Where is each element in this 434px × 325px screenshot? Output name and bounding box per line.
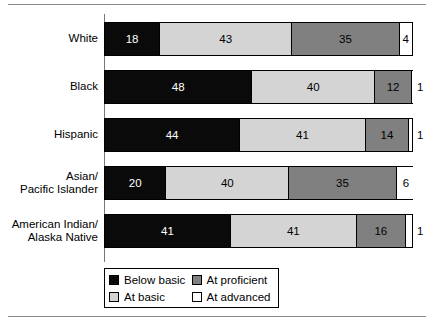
legend-item-label: At proficient — [207, 274, 268, 286]
bar-segment-below: 18 — [105, 23, 160, 55]
bar-segment-adv: 1 — [412, 71, 415, 103]
legend-grid: Below basicAt proficientAt basicAt advan… — [105, 269, 278, 307]
segment-value: 35 — [336, 177, 349, 189]
chart-row: Hispanic44411411 — [0, 118, 434, 152]
bar-segment-below: 48 — [105, 71, 252, 103]
segment-value: 4 — [403, 33, 409, 45]
segment-value: 41 — [161, 225, 174, 237]
bar-segment-prof: 16 — [357, 215, 406, 247]
bar-segment-basic: 41 — [231, 215, 357, 247]
bar-segment-prof: 35 — [292, 23, 399, 55]
segment-value-outside: 1 — [417, 70, 423, 104]
row-category-label: American Indian/ Alaska Native — [2, 214, 104, 248]
segment-value: 12 — [387, 81, 400, 93]
segment-value: 20 — [129, 177, 142, 189]
legend-swatch-icon — [109, 292, 119, 302]
stacked-bar-chart: White1843354Black48401211Hispanic4441141… — [0, 14, 434, 262]
segment-value: 43 — [219, 33, 232, 45]
top-divider-rule — [8, 4, 426, 5]
legend-item-prof[interactable]: At proficient — [192, 274, 275, 286]
bar-segment-basic: 43 — [160, 23, 292, 55]
stacked-bar: 2040356 — [104, 166, 413, 200]
legend-item-basic[interactable]: At basic — [109, 291, 192, 303]
stacked-bar: 4441141 — [104, 118, 413, 152]
bar-segment-below: 44 — [105, 119, 240, 151]
row-category-label: Hispanic — [2, 118, 104, 152]
legend-item-below[interactable]: Below basic — [109, 274, 192, 286]
segment-value-outside: 1 — [417, 118, 423, 152]
bar-segment-prof: 14 — [366, 119, 409, 151]
segment-value: 40 — [307, 81, 320, 93]
legend-item-label: At basic — [124, 291, 165, 303]
segment-value: 16 — [374, 225, 387, 237]
legend-swatch-icon — [192, 292, 202, 302]
bar-segment-basic: 40 — [252, 71, 375, 103]
bar-segment-adv: 6 — [397, 167, 415, 199]
bar-segment-prof: 12 — [375, 71, 412, 103]
bar-segment-adv: 1 — [409, 119, 412, 151]
bottom-divider-rule — [8, 316, 426, 317]
bar-segment-adv: 4 — [400, 23, 412, 55]
row-category-label: Black — [2, 70, 104, 104]
segment-value: 41 — [287, 225, 300, 237]
bar-segment-adv: 1 — [406, 215, 409, 247]
chart-row: Asian/ Pacific Islander2040356 — [0, 166, 434, 200]
bar-segment-prof: 35 — [289, 167, 396, 199]
segment-value: 44 — [166, 129, 179, 141]
stacked-bar: 4141161 — [104, 214, 413, 248]
chart-row: White1843354 — [0, 22, 434, 56]
legend-item-label: Below basic — [124, 274, 185, 286]
row-category-label: Asian/ Pacific Islander — [2, 166, 104, 200]
segment-value-outside: 1 — [417, 214, 423, 248]
row-category-label: White — [2, 22, 104, 56]
legend-item-label: At advanced — [207, 291, 271, 303]
stacked-bar: 4840121 — [104, 70, 413, 104]
segment-value: 48 — [172, 81, 185, 93]
chart-row: American Indian/ Alaska Native41411611 — [0, 214, 434, 248]
bar-segment-below: 41 — [105, 215, 231, 247]
chart-legend: Below basicAt proficientAt basicAt advan… — [104, 268, 279, 308]
bar-segment-basic: 40 — [166, 167, 289, 199]
segment-value: 14 — [381, 129, 394, 141]
segment-value: 41 — [296, 129, 309, 141]
bar-segment-basic: 41 — [240, 119, 366, 151]
segment-value: 35 — [339, 33, 352, 45]
segment-value: 18 — [126, 33, 139, 45]
bar-segment-below: 20 — [105, 167, 166, 199]
segment-value: 40 — [221, 177, 234, 189]
legend-swatch-icon — [109, 275, 119, 285]
legend-swatch-icon — [192, 275, 202, 285]
stacked-bar: 1843354 — [104, 22, 413, 56]
chart-row: Black48401211 — [0, 70, 434, 104]
segment-value: 6 — [403, 177, 409, 189]
legend-item-adv[interactable]: At advanced — [192, 291, 275, 303]
